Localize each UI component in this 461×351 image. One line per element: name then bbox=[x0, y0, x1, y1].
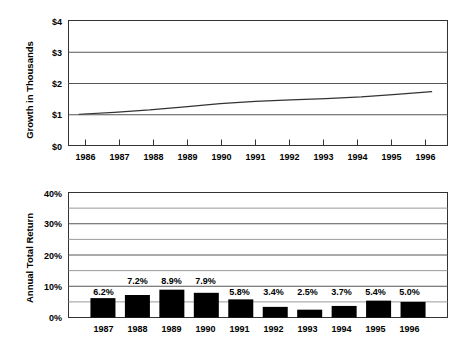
growth-ytick-0: $0 bbox=[52, 142, 62, 152]
return-xtick-1987: 1987 bbox=[93, 324, 113, 334]
return-datalabel-1988: 7.2% bbox=[127, 276, 148, 286]
growth-line-panel: Growth in Thousands $4 $3 $2 $1 $0 bbox=[24, 17, 448, 163]
return-bar-1988 bbox=[125, 295, 150, 318]
return-ytick-20: 20% bbox=[44, 251, 62, 261]
return-xtick-1993: 1993 bbox=[297, 324, 317, 334]
return-ytick-0: 0% bbox=[49, 313, 62, 323]
return-datalabel-1994: 3.7% bbox=[331, 287, 352, 297]
return-datalabel-1989: 8.9% bbox=[161, 276, 182, 286]
return-xtick-1989: 1989 bbox=[161, 324, 181, 334]
growth-xtick-1990: 1990 bbox=[211, 152, 231, 162]
return-bar-1992 bbox=[263, 307, 288, 318]
growth-xtick-1988: 1988 bbox=[143, 152, 163, 162]
return-xtick-1994: 1994 bbox=[331, 324, 351, 334]
growth-xtick-1989: 1989 bbox=[177, 152, 197, 162]
return-datalabel-1990: 7.9% bbox=[195, 276, 216, 286]
return-bar-1990 bbox=[194, 293, 219, 318]
growth-ytick-2: $2 bbox=[52, 79, 62, 89]
growth-xtick-1992: 1992 bbox=[279, 152, 299, 162]
return-bar-1995 bbox=[366, 301, 391, 318]
return-datalabel-1991: 5.8% bbox=[229, 287, 250, 297]
growth-xtick-1993: 1993 bbox=[313, 152, 333, 162]
growth-ytick-3: $3 bbox=[52, 48, 62, 58]
chart-canvas: Growth in Thousands $4 $3 $2 $1 $0 bbox=[0, 0, 461, 351]
return-ytick-40: 40% bbox=[44, 189, 62, 199]
return-ytick-30: 30% bbox=[44, 219, 62, 229]
return-bar-1989 bbox=[159, 290, 184, 318]
growth-xtick-1994: 1994 bbox=[347, 152, 367, 162]
return-xtick-1992: 1992 bbox=[263, 324, 283, 334]
growth-ytick-4: $4 bbox=[52, 17, 62, 27]
return-bar-1994 bbox=[332, 306, 357, 318]
return-xtick-1995: 1995 bbox=[365, 324, 385, 334]
return-xtick-1991: 1991 bbox=[229, 324, 249, 334]
return-datalabel-1992: 3.4% bbox=[263, 287, 284, 297]
return-xtick-1996: 1996 bbox=[399, 324, 419, 334]
growth-xtick-1986: 1986 bbox=[75, 152, 95, 162]
return-datalabel-1987: 6.2% bbox=[93, 287, 114, 297]
return-xtick-1990: 1990 bbox=[195, 324, 215, 334]
return-bar-1991 bbox=[228, 299, 253, 317]
growth-xtick-1995: 1995 bbox=[381, 152, 401, 162]
growth-xtick-1996: 1996 bbox=[415, 152, 435, 162]
return-datalabel-1995: 5.4% bbox=[365, 287, 386, 297]
return-ytick-10: 10% bbox=[44, 282, 62, 292]
growth-xtick-1987: 1987 bbox=[109, 152, 129, 162]
growth-y-axis-title: Growth in Thousands bbox=[24, 41, 35, 139]
return-datalabel-1996: 5.0% bbox=[399, 287, 420, 297]
growth-ytick-1: $1 bbox=[52, 110, 62, 120]
return-bar-1993 bbox=[297, 310, 322, 318]
return-xtick-1988: 1988 bbox=[127, 324, 147, 334]
return-bar-1996 bbox=[401, 302, 426, 318]
return-datalabel-1993: 2.5% bbox=[297, 287, 318, 297]
growth-xtick-1991: 1991 bbox=[245, 152, 265, 162]
annual-return-bar-panel: Annual Total Return 40% 30% 20% 10% 0% bbox=[24, 189, 448, 335]
return-y-axis-title: Annual Total Return bbox=[24, 213, 35, 303]
two-panel-investment-chart: Growth in Thousands $4 $3 $2 $1 $0 bbox=[0, 0, 461, 351]
return-bar-1987 bbox=[90, 298, 115, 317]
